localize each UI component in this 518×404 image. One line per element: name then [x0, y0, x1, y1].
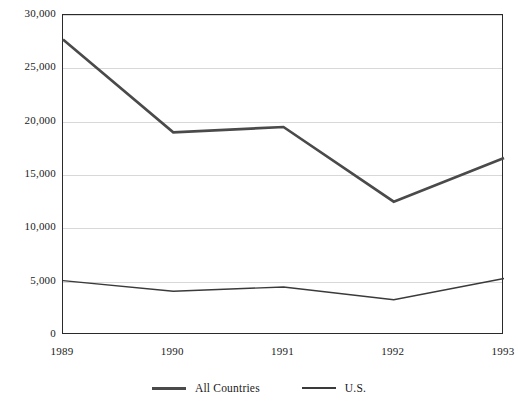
series-layer [63, 15, 504, 335]
legend-label: U.S. [345, 382, 366, 394]
legend-label: All Countries [195, 382, 260, 394]
legend-item: U.S. [302, 382, 366, 394]
y-tick-label: 0 [0, 328, 56, 339]
legend-item: All Countries [152, 382, 260, 394]
y-tick-label: 5,000 [0, 275, 56, 286]
y-tick-label: 30,000 [0, 8, 56, 19]
y-axis-tick-labels: 05,00010,00015,00020,00025,00030,000 [0, 0, 56, 404]
series-line [63, 278, 504, 299]
x-axis-tick-labels: 19891990199119921993 [62, 345, 503, 361]
series-line [63, 40, 504, 202]
legend-line-swatch [302, 387, 336, 388]
x-tick-label: 1990 [137, 345, 207, 358]
legend-line-swatch [152, 387, 186, 390]
y-tick-label: 10,000 [0, 221, 56, 232]
y-tick-label: 25,000 [0, 61, 56, 72]
x-tick-label: 1992 [358, 345, 428, 358]
line-chart-figure: 05,00010,00015,00020,00025,00030,000 198… [0, 0, 518, 404]
chart-legend: All CountriesU.S. [0, 378, 518, 398]
x-tick-label: 1993 [468, 345, 518, 358]
x-tick-label: 1989 [27, 345, 97, 358]
y-tick-label: 20,000 [0, 115, 56, 126]
y-tick-label: 15,000 [0, 168, 56, 179]
x-tick-label: 1991 [248, 345, 318, 358]
plot-area [62, 14, 503, 334]
